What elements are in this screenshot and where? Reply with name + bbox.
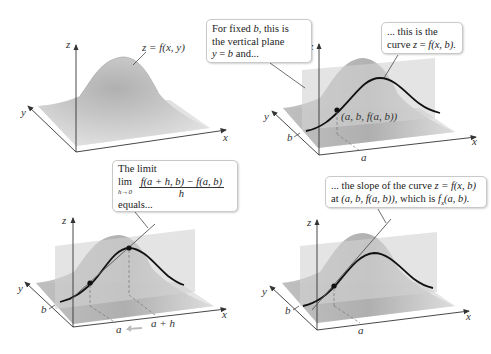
x-axis-label: x — [221, 308, 227, 320]
surface-label: z = f(x, y) — [141, 41, 185, 54]
x-axis-label: x — [471, 135, 477, 147]
panel-surface: z x y z = f(x, y) — [20, 38, 228, 152]
difference-quotient: f(a + h, b) − f(a, b) h — [139, 176, 224, 199]
tick-a: a — [116, 323, 122, 335]
tick-a-plus-h: a + h — [151, 317, 175, 329]
tick-a: a — [361, 151, 367, 163]
callout-slope: ... the slope of the curve z = f(x, b) a… — [325, 176, 487, 208]
z-axis-label: z — [306, 216, 312, 228]
z-axis-label: z — [61, 214, 67, 226]
point-label: (a, b, f(a, b)) — [341, 110, 398, 123]
h-to-zero-arrow — [128, 326, 142, 331]
panel-tangent: z x y a b — [261, 209, 471, 336]
callout-vertical-plane: For fixed b, this is the vertical plane … — [206, 19, 312, 63]
panel-secant: z x y a a + h b — [17, 212, 227, 335]
tick-b: b — [285, 304, 291, 316]
y-axis-label: y — [263, 110, 269, 122]
callout-limit: The limit lim h→0 f(a + h, b) − f(a, b) … — [112, 160, 238, 212]
y-axis-label: y — [20, 106, 26, 118]
z-axis-label: z — [65, 38, 71, 50]
tick-b: b — [41, 303, 47, 315]
tick-a: a — [358, 324, 364, 336]
y-axis-label: y — [261, 285, 267, 297]
tick-b: b — [287, 131, 293, 143]
callout-curve: ... this is the curve z = f(x, b). — [381, 22, 463, 54]
limit-operator: lim h→0 — [118, 177, 132, 197]
x-axis-label: x — [465, 310, 471, 322]
x-axis-label: x — [222, 131, 228, 143]
surface-bump — [38, 57, 210, 146]
point-a-b-fab — [334, 107, 339, 112]
y-axis-label: y — [17, 282, 23, 294]
